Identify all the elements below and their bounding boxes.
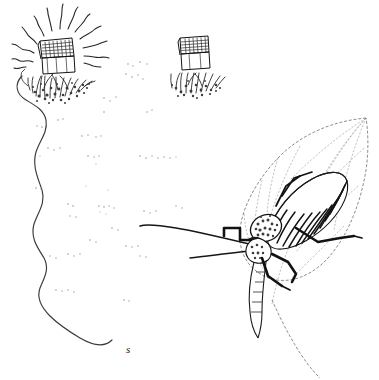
speaker-box-right[interactable] [178,36,210,70]
ground-texture-marks [35,61,183,301]
vegetation-right [171,73,225,99]
katydid [140,172,362,338]
track-label-s: s [126,344,130,355]
figure-canvas: s [0,0,379,380]
sound-rays-left-box [12,4,109,69]
walking-track [17,76,112,345]
speaker-box-left[interactable] [38,38,75,74]
tarsus-front [282,286,290,290]
antenna-long [140,225,262,247]
vegetation-left [21,69,95,104]
illustration-svg [0,0,379,380]
ovipositor [249,262,258,338]
tarsus-right [354,236,362,238]
